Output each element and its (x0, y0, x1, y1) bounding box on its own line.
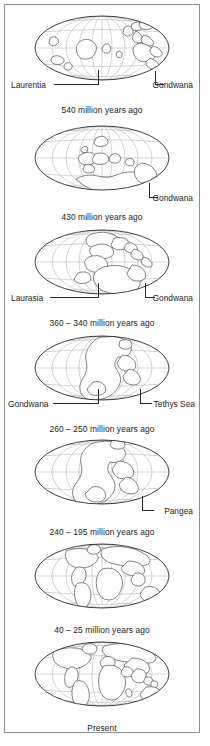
leader-line-pangea-240 (142, 510, 154, 511)
leader-line-gondwana-540 (155, 84, 164, 85)
panel-260-250-million-years-ago: Gondwana Tethys Sea 260 – 250 million ye… (5, 333, 199, 434)
leader-line-tethys-sea-260 (140, 403, 152, 404)
panel-40-25-million-years-ago: 40 – 25 million years ago (5, 541, 199, 635)
leader-tick-gondwana-430 (149, 183, 150, 198)
world-map-240-195 (32, 437, 172, 507)
label-gondwana-430: Gondwana (152, 193, 193, 203)
leader-line-laurasia-360 (50, 297, 98, 298)
leader-tick-tethys-sea-260 (140, 389, 141, 404)
caption-240-195: 240 – 195 million years ago (5, 527, 199, 537)
world-map-360-340 (32, 227, 172, 297)
globe-360-340 (5, 227, 199, 297)
panel-240-195-million-years-ago: Pangea 240 – 195 million years ago (5, 437, 199, 537)
figure-frame: Laurentia Gondwana 540 million years ago (4, 4, 200, 733)
label-tethys-sea-260: Tethys Sea (154, 399, 195, 409)
globe-430 (5, 123, 199, 193)
caption-540: 540 million years ago (5, 105, 199, 115)
label-pangea-240: Pangea (164, 506, 193, 516)
leader-tick-laurasia-360 (98, 283, 99, 298)
world-map-430 (32, 123, 172, 193)
label-gondwana-360: Gondwana (152, 293, 193, 303)
label-gondwana-540: Gondwana (152, 80, 193, 90)
world-map-260-250 (32, 333, 172, 403)
globe-present (5, 639, 199, 709)
world-map-present (32, 639, 172, 709)
world-map-540 (32, 13, 172, 83)
caption-360-340: 360 – 340 million years ago (5, 318, 199, 328)
leader-line-gondwana-360 (145, 297, 155, 298)
globe-260-250 (5, 333, 199, 403)
leader-line-gondwana-430 (149, 197, 158, 198)
leader-tick-gondwana-260 (98, 389, 99, 404)
leader-line-laurentia-540 (54, 84, 98, 85)
world-map-40-25 (32, 541, 172, 611)
label-laurasia-360: Laurasia (11, 293, 43, 303)
caption-430: 430 million years ago (5, 212, 199, 222)
label-gondwana-260: Gondwana (8, 399, 49, 409)
panel-430-million-years-ago: Gondwana 430 million years ago (5, 123, 199, 222)
caption-260-250: 260 – 250 million years ago (5, 424, 199, 434)
caption-40-25: 40 – 25 million years ago (5, 625, 199, 635)
label-laurentia-540: Laurentia (11, 80, 46, 90)
leader-tick-laurentia-540 (98, 70, 99, 85)
globe-40-25 (5, 541, 199, 611)
leader-line-gondwana-260 (53, 403, 98, 404)
globe-240-195 (5, 437, 199, 507)
panel-present: Present (5, 639, 199, 733)
leader-tick-gondwana-540 (155, 71, 156, 85)
caption-present: Present (5, 723, 199, 733)
globe-540 (5, 13, 199, 83)
leader-tick-gondwana-360 (145, 283, 146, 298)
panel-360-340-million-years-ago: Laurasia Gondwana 360 – 340 million year… (5, 227, 199, 328)
panel-540-million-years-ago: Laurentia Gondwana 540 million years ago (5, 13, 199, 115)
leader-tick-pangea-240 (142, 496, 143, 511)
